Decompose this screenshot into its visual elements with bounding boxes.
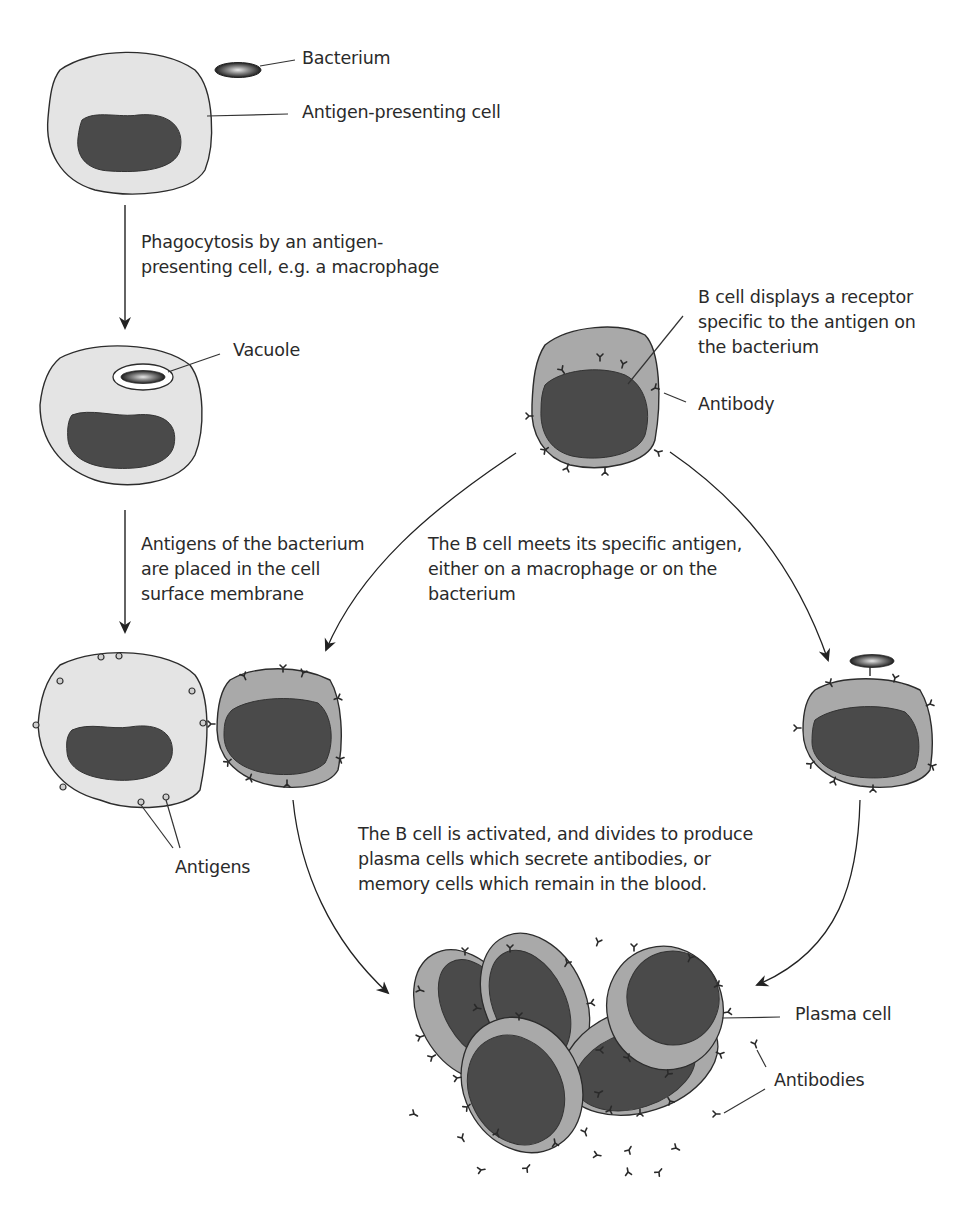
label-antigen-presenting-cell: Antigen-presenting cell (302, 100, 501, 125)
bound-bacterium-icon (850, 655, 894, 668)
b-cell (526, 327, 662, 475)
bacterium-icon (215, 63, 261, 78)
engulfed-bacterium-icon (121, 371, 165, 384)
label-antibodies: Antibodies (774, 1068, 864, 1093)
diagram-graphics (0, 0, 970, 1219)
apc-with-antigens (33, 653, 207, 808)
label-antibody: Antibody (698, 392, 774, 417)
label-bacterium: Bacterium (302, 46, 390, 71)
label-vacuole: Vacuole (233, 338, 300, 363)
label-plasma-cell: Plasma cell (795, 1002, 892, 1027)
arrow-bacterium-to-plasma (757, 800, 860, 985)
label-step-phagocytosis: Phagocytosis by an antigen- presenting c… (141, 230, 439, 280)
label-step-antigen-display: Antigens of the bacterium are placed in … (141, 532, 364, 607)
apc-cell-2 (40, 346, 202, 485)
label-antigens: Antigens (175, 855, 250, 880)
b-cell-bound-to-apc (208, 665, 344, 787)
label-step-b-cell-meets-antigen: The B cell meets its specific antigen, e… (428, 532, 742, 607)
diagram-canvas: Bacterium Antigen-presenting cell Phagoc… (0, 0, 970, 1219)
b-cell-bound-to-bacterium (794, 655, 936, 793)
antigen-marker (98, 654, 104, 660)
label-b-cell-receptor: B cell displays a receptor specific to t… (698, 285, 916, 360)
label-step-activation: The B cell is activated, and divides to … (358, 822, 753, 897)
plasma-cell-cluster (391, 916, 737, 1174)
apc-cell-1 (48, 52, 212, 194)
